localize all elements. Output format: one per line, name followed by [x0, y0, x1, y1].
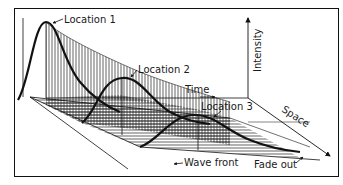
location-1-pointer [53, 19, 63, 23]
label-space: Space [280, 103, 312, 129]
wave-front-pointer [174, 163, 183, 164]
label-wave-front: Wave front [184, 157, 238, 168]
label-intensity: Intensity [252, 28, 263, 72]
label-location-2: Location 2 [138, 64, 190, 75]
label-location-1: Location 1 [64, 14, 116, 25]
label-time: Time [184, 84, 209, 95]
wave-propagation-diagram: Location 1 Location 2 Location 3 Intensi… [0, 0, 343, 185]
label-fade-out: Fade out [254, 159, 297, 170]
label-location-3: Location 3 [201, 101, 253, 112]
